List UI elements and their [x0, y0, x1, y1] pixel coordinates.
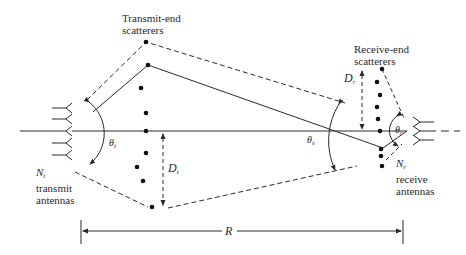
theta-r-label: θr — [395, 124, 403, 139]
transmit-scatterers-line1: Transmit-end — [122, 12, 181, 24]
receive-scatterers-label: Receive-end scatterers — [354, 43, 409, 67]
theta-t-arc — [89, 102, 104, 164]
rx-antennas-line1: receive — [396, 173, 434, 185]
theta-s-arc — [329, 104, 339, 170]
nr-subscript: r — [403, 163, 406, 171]
receive-scatterers-line1: Receive-end — [354, 43, 409, 55]
theta-t-label: θt — [109, 137, 116, 152]
theta-s-label: θs — [307, 134, 315, 149]
receive-scatterers-line2: scatterers — [354, 55, 409, 67]
tx-antennas-line2: antennas — [36, 194, 74, 206]
rx-envelope-upper-dashed — [382, 69, 404, 118]
transmit-scatterers — [135, 40, 155, 210]
tx-antennas-line1: transmit — [36, 182, 74, 194]
range-label: R — [225, 225, 232, 237]
tx-antennas-label: Nt transmit antennas — [36, 166, 74, 206]
upper-envelope-dashed — [87, 42, 345, 103]
lower-envelope-rx-dashed — [168, 166, 357, 208]
transmit-antenna-array — [52, 103, 72, 160]
dt-label: Dt — [168, 162, 179, 178]
receive-scatterers — [375, 67, 385, 169]
signal-path — [93, 65, 407, 148]
dr-label: Dr — [344, 72, 355, 88]
transmit-scatterers-line2: scatterers — [122, 24, 181, 36]
lower-envelope-tx-dashed — [75, 172, 148, 207]
rx-antennas-line2: antennas — [396, 185, 434, 197]
rx-antennas-label: Nr receive antennas — [396, 157, 434, 197]
nt-subscript: t — [43, 172, 45, 180]
range-dimension — [81, 220, 403, 244]
transmit-scatterers-label: Transmit-end scatterers — [122, 12, 181, 36]
